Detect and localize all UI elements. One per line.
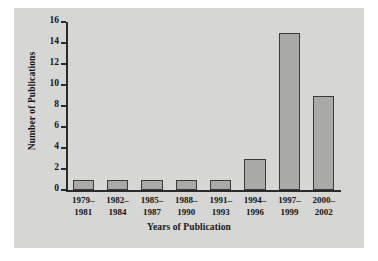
x-tick-label: 1982–1984 [100,195,134,218]
y-tick-0: 0 [61,189,66,190]
y-tick-label: 14 [50,35,60,48]
x-tick-label: 1994–1996 [238,195,272,218]
y-tick-label: 4 [54,140,59,153]
bar [313,96,334,191]
x-tick-label-line: 1997– [272,195,306,207]
bar [141,180,162,191]
y-tick-label: 2 [54,161,59,174]
x-tick-label-line: 2002 [307,207,341,219]
x-axis-line [66,190,341,192]
x-tick-label-line: 1987 [135,207,169,219]
x-tick-label: 1997–1999 [272,195,306,218]
y-tick-10: 10 [61,84,66,85]
y-tick-16: 16 [61,21,66,22]
y-axis-line [66,22,68,190]
x-tick-label-line: 2000– [307,195,341,207]
x-tick-label-line: 1979– [66,195,100,207]
bar [176,180,197,191]
x-tick-label: 1985–1987 [135,195,169,218]
x-tick-label-line: 1991– [204,195,238,207]
x-tick-label: 1988–1990 [169,195,203,218]
x-tick-label-line: 1982– [100,195,134,207]
y-tick-6: 6 [61,126,66,127]
y-tick-label: 6 [54,119,59,132]
bar [107,180,128,191]
bar [244,159,265,191]
x-tick-label-line: 1985– [135,195,169,207]
y-tick-8: 8 [61,105,66,106]
bar [279,33,300,191]
y-tick-4: 4 [61,147,66,148]
chart-figure: Number of Publications 0246810121416 197… [14,8,364,248]
y-tick-label: 8 [54,98,59,111]
y-tick-2: 2 [61,168,66,169]
x-tick-label-line: 1993 [204,207,238,219]
x-tick-label-line: 1984 [100,207,134,219]
x-tick-label: 2000–2002 [307,195,341,218]
x-tick-label-line: 1990 [169,207,203,219]
x-tick-label-line: 1996 [238,207,272,219]
x-tick-label-line: 1994– [238,195,272,207]
x-tick-label: 1979–1981 [66,195,100,218]
x-tick-label-line: 1988– [169,195,203,207]
x-axis-title: Years of Publication [14,222,364,232]
y-axis-title: Number of Publications [27,31,37,171]
y-tick-12: 12 [61,63,66,64]
plot-area: 0246810121416 1979–19811982–19841985–198… [66,22,341,190]
bar [73,180,94,191]
x-tick-label-line: 1999 [272,207,306,219]
y-tick-label: 16 [50,14,60,27]
bar [210,180,231,191]
y-tick-label: 0 [54,182,59,195]
x-tick-label: 1991–1993 [204,195,238,218]
x-tick-label-line: 1981 [66,207,100,219]
y-tick-label: 10 [50,77,60,90]
y-tick-label: 12 [50,56,60,69]
y-tick-14: 14 [61,42,66,43]
